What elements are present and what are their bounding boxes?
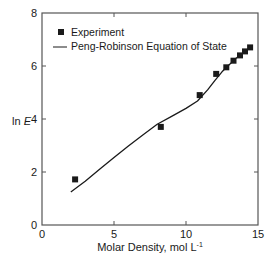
y-axis-title: ln E xyxy=(12,115,32,127)
x-axis-title: Molar Density, mol L-1 xyxy=(97,241,203,253)
chart: 05101502468 Experiment Peng-Robinson Equ… xyxy=(0,0,274,263)
legend-label-experiment: Experiment xyxy=(71,26,124,38)
experiment-data-point xyxy=(231,58,237,64)
experiment-data-point xyxy=(247,44,253,50)
x-tick-label: 15 xyxy=(252,228,264,240)
x-axis-title-superscript: -1 xyxy=(197,241,203,248)
legend: Experiment Peng-Robinson Equation of Sta… xyxy=(53,26,227,52)
x-tick-label: 10 xyxy=(180,228,192,240)
y-tick-label: 6 xyxy=(31,60,37,72)
legend-square-marker-icon xyxy=(58,29,64,35)
y-axis-title-prefix: ln xyxy=(12,115,24,127)
y-tick-label: 8 xyxy=(31,7,37,19)
y-tick-label: 0 xyxy=(31,219,37,231)
experiment-data-point xyxy=(158,124,164,130)
experiment-data-point xyxy=(197,92,203,98)
x-tick-label: 5 xyxy=(111,228,117,240)
y-axis-title-variable: E xyxy=(24,115,32,127)
x-axis-title-text: Molar Density, mol L xyxy=(97,241,196,253)
y-tick-label: 4 xyxy=(31,113,37,125)
experiment-data-point xyxy=(72,176,78,182)
experiment-markers xyxy=(72,44,253,182)
y-tick-label: 2 xyxy=(31,166,37,178)
experiment-data-point xyxy=(213,71,219,77)
legend-label-peng-robinson: Peng-Robinson Equation of State xyxy=(71,40,227,52)
x-tick-label: 0 xyxy=(39,228,45,240)
experiment-data-point xyxy=(223,64,229,70)
